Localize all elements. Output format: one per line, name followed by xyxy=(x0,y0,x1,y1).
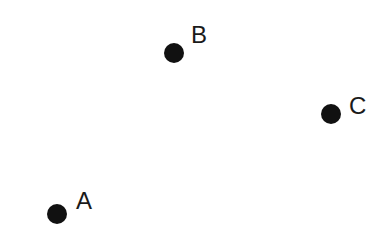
point-b-dot xyxy=(164,43,184,63)
point-c-dot xyxy=(321,104,341,124)
point-b-label: B xyxy=(191,23,207,47)
diagram-canvas: A B C xyxy=(0,0,383,233)
point-c-label: C xyxy=(349,94,366,118)
point-a-label: A xyxy=(76,189,92,213)
point-a-dot xyxy=(47,204,67,224)
